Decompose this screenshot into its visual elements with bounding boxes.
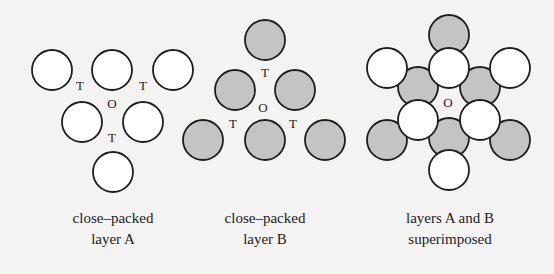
sphere-layer-a	[32, 50, 72, 90]
octahedral-hole-label: O	[107, 96, 116, 111]
sphere-layer-a	[123, 102, 163, 142]
sphere-layer-a	[367, 48, 407, 88]
sphere-layer-a	[153, 50, 193, 90]
tetrahedral-hole-label: T	[261, 65, 269, 80]
panel-0: TTOT	[32, 50, 193, 192]
tetrahedral-hole-label: T	[76, 78, 84, 93]
octahedral-hole-label: O	[258, 100, 267, 115]
sphere-layer-a	[62, 102, 102, 142]
caption-layer-a: close–packed layer A	[53, 208, 173, 250]
octahedral-hole-label: O	[443, 95, 452, 110]
caption-line: layer B	[205, 229, 325, 250]
panel-2: O	[367, 15, 530, 190]
sphere-layer-b	[275, 70, 315, 110]
tetrahedral-hole-label: T	[139, 78, 147, 93]
sphere-layer-b	[245, 20, 285, 60]
tetrahedral-hole-label: T	[289, 116, 297, 131]
caption-layer-b: close–packed layer B	[205, 208, 325, 250]
caption-superimposed: layers A and B superimposed	[380, 208, 520, 250]
sphere-layer-a	[429, 48, 469, 88]
tetrahedral-hole-label: T	[108, 130, 116, 145]
sphere-layer-a	[429, 150, 469, 190]
caption-line: close–packed	[205, 208, 325, 229]
caption-line: superimposed	[380, 229, 520, 250]
sphere-layer-b	[183, 120, 223, 160]
sphere-layer-a	[460, 100, 500, 140]
sphere-layer-a	[490, 48, 530, 88]
sphere-layer-b	[215, 70, 255, 110]
tetrahedral-hole-label: T	[229, 116, 237, 131]
sphere-layer-a	[398, 100, 438, 140]
caption-line: layer A	[53, 229, 173, 250]
panel-1: TOTT	[183, 20, 345, 160]
sphere-layer-a	[93, 152, 133, 192]
sphere-layer-a	[92, 50, 132, 90]
sphere-layer-b	[305, 120, 345, 160]
caption-line: layers A and B	[380, 208, 520, 229]
caption-line: close–packed	[53, 208, 173, 229]
sphere-layer-b	[245, 120, 285, 160]
